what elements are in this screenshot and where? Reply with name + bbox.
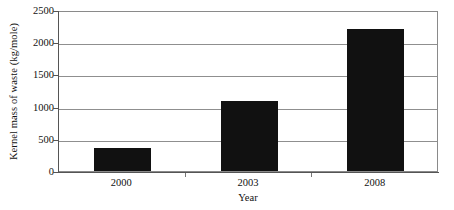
bar-chart-figure: Kernel mass of waste (kg/mole) 050010001… [0,0,454,210]
y-axis-tick-label: 500 [22,135,54,146]
y-axis-tick-label: 2500 [22,6,54,17]
bar-2003 [221,101,278,171]
y-axis-tick-mark [53,172,58,173]
y-axis-tick-mark [53,11,58,12]
y-axis-tick-mark [53,75,58,76]
bar-2008 [347,29,404,171]
x-axis-tick-label: 2003 [238,178,259,189]
x-axis-line [58,172,439,173]
plot-area [58,11,438,172]
y-axis-tick-label: 2000 [22,38,54,49]
y-axis-tick-label: 0 [22,167,54,178]
y-axis-tick-label: 1500 [22,70,54,81]
bar-2000 [94,148,151,171]
y-axis-line [58,11,59,173]
y-axis-tick-mark [53,140,58,141]
y-axis-tick-mark [53,108,58,109]
x-axis-tick-mark [311,173,312,177]
y-axis-title-text: Kernel mass of waste (kg/mole) [9,22,20,159]
y-axis-tick-label: 1000 [22,102,54,113]
x-axis-tick-label: 2000 [111,178,132,189]
x-axis-tick-mark [185,173,186,177]
x-axis-title: Year [238,193,257,204]
y-axis-tick-mark [53,43,58,44]
y-axis-tick-labels: 05001000150020002500 [22,0,54,182]
x-axis-tick-label: 2008 [364,178,385,189]
